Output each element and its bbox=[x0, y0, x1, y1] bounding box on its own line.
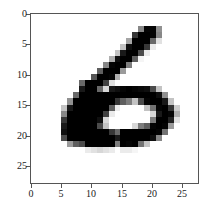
x-tick-label: 25 bbox=[177, 189, 187, 199]
x-tick-label: 0 bbox=[29, 189, 34, 199]
y-tick-label: 5 bbox=[22, 39, 27, 49]
y-tick-label: 15 bbox=[17, 100, 27, 110]
y-tick-label: 20 bbox=[17, 131, 27, 141]
x-tick-label: 15 bbox=[117, 189, 127, 199]
y-tick-label: 0 bbox=[22, 9, 27, 19]
x-tick-label: 20 bbox=[147, 189, 157, 199]
x-tick-label: 10 bbox=[86, 189, 96, 199]
pixel-cell bbox=[192, 177, 198, 183]
x-tick-label: 5 bbox=[59, 189, 64, 199]
digit-image bbox=[31, 14, 198, 183]
y-tick-label: 25 bbox=[17, 161, 27, 171]
y-tick-label: 10 bbox=[17, 70, 27, 80]
image-axes bbox=[30, 13, 199, 184]
